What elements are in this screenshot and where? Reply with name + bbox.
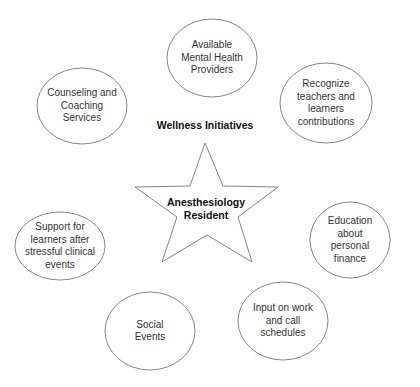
node-text: Recognize	[297, 78, 355, 91]
node-text: learners after	[25, 234, 95, 247]
node-mental-health: Available Mental Health Providers	[167, 19, 257, 97]
node-support: Support for learners after stressful cli…	[15, 212, 105, 280]
node-text: schedules	[253, 327, 313, 340]
node-text: learners	[297, 103, 355, 116]
node-text: Available	[181, 39, 243, 52]
node-finance: Education about personal finance	[310, 202, 390, 278]
node-text: Services	[47, 112, 117, 125]
node-text: personal	[328, 240, 372, 253]
node-text: finance	[328, 253, 372, 266]
node-text: Social	[135, 319, 166, 332]
node-text: teachers and	[297, 91, 355, 104]
node-text: Input on work	[253, 302, 313, 315]
node-text: Coaching	[47, 100, 117, 113]
node-text: about	[328, 228, 372, 241]
node-text: and call	[253, 315, 313, 328]
node-text: Providers	[181, 64, 243, 77]
node-text: Events	[135, 331, 166, 344]
node-schedules: Input on work and call schedules	[238, 282, 328, 360]
node-text: Education	[328, 215, 372, 228]
node-recognize: Recognize teachers and learners contribu…	[280, 63, 372, 143]
center-label-line1: Anesthesiology	[150, 196, 262, 209]
center-label: Anesthesiology Resident	[150, 196, 262, 222]
center-label-line2: Resident	[150, 209, 262, 222]
node-text: Counseling and	[47, 87, 117, 100]
node-text: events	[25, 259, 95, 272]
node-text: contributions	[297, 116, 355, 129]
node-social: Social Events	[105, 292, 195, 370]
node-text: stressful clinical	[25, 246, 95, 259]
diagram-heading: Wellness Initiatives	[150, 119, 260, 131]
node-counseling: Counseling and Coaching Services	[37, 68, 127, 144]
node-text: Support for	[25, 221, 95, 234]
node-text: Mental Health	[181, 52, 243, 65]
